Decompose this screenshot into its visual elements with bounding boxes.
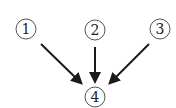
node-label: 4	[91, 89, 100, 105]
flow-diagram: 1234	[0, 0, 176, 108]
node-2: 2	[85, 20, 105, 40]
edges	[41, 44, 149, 82]
node-3: 3	[150, 19, 170, 39]
arrow-1-to-4	[41, 44, 80, 82]
node-4: 4	[85, 87, 105, 107]
node-1: 1	[16, 19, 36, 39]
node-label: 2	[91, 22, 100, 38]
arrow-3-to-4	[111, 44, 149, 82]
node-label: 1	[22, 21, 31, 37]
nodes: 1234	[16, 19, 170, 107]
node-label: 3	[156, 21, 165, 37]
